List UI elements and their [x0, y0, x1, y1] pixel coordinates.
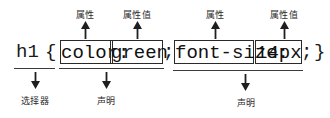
code-semicolon-1: ; — [163, 38, 174, 66]
label-property-value-1: 属性值 — [113, 8, 161, 21]
code-close-brace: } — [314, 38, 325, 66]
code-selector: h1 — [16, 38, 39, 66]
underline-declaration-2 — [173, 70, 303, 71]
arrow-down-declaration-1 — [101, 72, 112, 89]
code-semicolon-2: ; — [301, 38, 312, 66]
css-syntax-diagram: 属性 属性值 属性 属性值 h1 { color: g — [0, 0, 330, 118]
underline-declaration-1 — [59, 68, 164, 69]
code-open-brace: { — [45, 38, 56, 66]
box-property-2: font-size: — [174, 40, 254, 64]
arrow-up-property-1 — [80, 21, 91, 39]
label-property-1: 属性 — [65, 8, 105, 21]
box-property-value-2: 14px — [255, 40, 302, 64]
label-property-value-2: 属性值 — [260, 8, 308, 21]
label-selector: 选择器 — [11, 94, 59, 107]
arrow-up-property-2 — [210, 21, 221, 39]
box-property-1: color: — [60, 40, 113, 64]
arrow-up-property-value-1 — [132, 21, 143, 39]
box-property-value-1: green — [110, 40, 163, 64]
label-declaration-2: 声明 — [226, 96, 266, 109]
arrow-down-selector — [30, 72, 41, 89]
label-property-2: 属性 — [195, 8, 235, 21]
arrow-down-declaration-2 — [240, 74, 251, 91]
arrow-up-property-value-2 — [279, 21, 290, 39]
underline-selector — [14, 68, 55, 69]
css-rule-code: h1 { color: green ; font-size: 14px ; } — [0, 38, 330, 66]
label-declaration-1: 声明 — [86, 94, 126, 107]
